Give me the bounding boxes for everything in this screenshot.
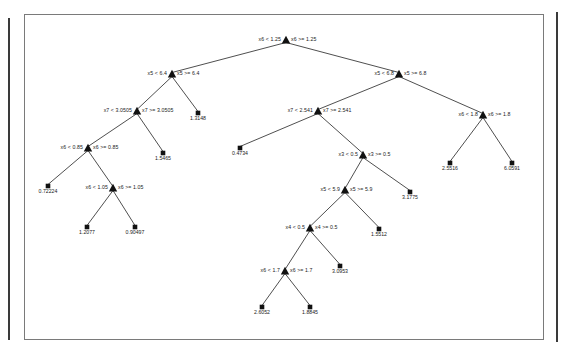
split-condition-left: x6 < 1.8 (459, 112, 478, 117)
split-condition-right: x6 >= 1.25 (291, 37, 317, 42)
split-condition-right: x5 >= 5.9 (350, 187, 373, 192)
leaf-value-label: 1.5512 (371, 232, 387, 237)
split-condition-left: x7 < 2.541 (288, 108, 313, 113)
split-condition-right: x6 >= 1.8 (488, 112, 511, 117)
split-condition-left: x6 < 1.05 (86, 185, 108, 190)
split-condition-left: x4 < 0.5 (286, 225, 305, 230)
leaf-value-label: 3.0953 (332, 269, 348, 274)
leaf-value-label: 2.5516 (442, 166, 458, 171)
page-edge-left (8, 18, 10, 340)
split-condition-right: x5 >= 6.8 (404, 71, 427, 76)
split-condition-right: x6 >= 1.05 (118, 185, 144, 190)
leaf-value-label: 1.8845 (302, 310, 318, 315)
split-condition-left: x6 < 0.85 (61, 145, 83, 150)
split-condition-left: x5 < 5.9 (321, 187, 340, 192)
plot-frame (24, 14, 544, 340)
leaf-value-label: 0.4734 (232, 151, 248, 156)
leaf-value-label: 1.5465 (155, 156, 171, 161)
split-condition-right: x7 >= 2.541 (323, 108, 352, 113)
page-edge-right (556, 12, 558, 342)
leaf-value-label: 0.90497 (126, 230, 145, 235)
split-condition-right: x6 >= 1.7 (290, 268, 313, 273)
leaf-value-label: 6.0591 (504, 166, 520, 171)
split-condition-left: x5 < 6.8 (375, 71, 394, 76)
figure-canvas: x6 < 1.25x6 >= 1.25x5 < 6.4x5 >= 6.4x5 <… (0, 0, 566, 357)
split-condition-right: x7 >= 3.0505 (142, 108, 174, 113)
split-condition-left: x6 < 1.7 (261, 268, 280, 273)
split-condition-right: x4 >= 0.5 (315, 225, 338, 230)
split-condition-right: x5 >= 6.4 (177, 71, 200, 76)
split-condition-left: x5 < 6.4 (148, 71, 167, 76)
split-condition-right: x3 >= 0.5 (368, 152, 391, 157)
leaf-value-label: 0.72224 (39, 189, 58, 194)
leaf-value-label: 2.6052 (254, 310, 270, 315)
split-condition-left: x3 < 0.5 (339, 152, 358, 157)
leaf-value-label: 1.3148 (190, 116, 206, 121)
leaf-value-label: 3.1775 (402, 195, 418, 200)
split-condition-left: x6 < 1.25 (259, 37, 281, 42)
split-condition-right: x6 >= 0.85 (93, 145, 119, 150)
split-condition-left: x7 < 3.0505 (104, 108, 132, 113)
leaf-value-label: 1.2077 (79, 230, 95, 235)
